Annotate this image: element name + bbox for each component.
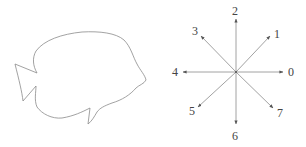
label-4: 4 [172, 65, 178, 79]
arrow-7 [236, 72, 273, 108]
direction-labels: 0 1 2 3 4 5 6 7 [172, 4, 294, 143]
direction-compass [183, 19, 283, 124]
label-3: 3 [192, 24, 198, 38]
fish-outline [15, 32, 146, 124]
label-6: 6 [232, 129, 238, 143]
fish-shape [15, 32, 146, 124]
figure-canvas: 0 1 2 3 4 5 6 7 [0, 0, 306, 147]
arrow-1 [236, 36, 270, 72]
label-7: 7 [277, 106, 283, 120]
label-2: 2 [232, 4, 238, 18]
label-1: 1 [274, 27, 280, 41]
label-0: 0 [288, 65, 294, 79]
arrow-5 [198, 72, 236, 107]
arrow-3 [201, 36, 236, 72]
compass-center [235, 71, 237, 73]
label-5: 5 [189, 104, 195, 118]
